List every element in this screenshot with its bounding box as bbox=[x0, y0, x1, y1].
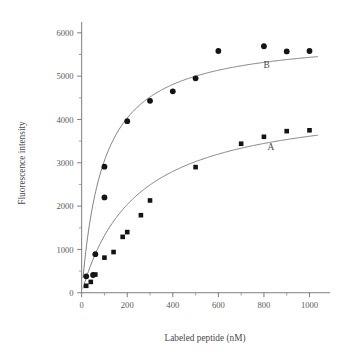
data-point-b bbox=[193, 75, 199, 81]
fit-curve-b bbox=[83, 57, 317, 278]
data-point-b bbox=[102, 164, 108, 170]
y-tick-label: 1000 bbox=[56, 245, 73, 255]
x-axis-title: Labeled peptide (nM) bbox=[164, 333, 245, 344]
data-point-b bbox=[83, 273, 89, 279]
x-tick-label: 200 bbox=[121, 300, 134, 310]
data-point-b bbox=[170, 88, 176, 94]
y-tick-label: 2000 bbox=[56, 201, 73, 211]
data-point-b bbox=[261, 43, 267, 49]
data-point-a bbox=[84, 284, 89, 289]
data-point-a bbox=[125, 230, 130, 235]
data-point-a bbox=[148, 198, 153, 203]
data-point-b bbox=[92, 251, 98, 257]
data-point-a bbox=[102, 255, 107, 260]
curves-group bbox=[83, 57, 317, 288]
data-point-a bbox=[307, 128, 312, 133]
x-tick-label: 800 bbox=[257, 300, 270, 310]
y-tick-label: 6000 bbox=[56, 28, 73, 38]
series-label-a: A bbox=[267, 142, 274, 152]
axes-group: 0200400600800100001000200030004000500060… bbox=[17, 22, 330, 344]
x-tick-label: 600 bbox=[212, 300, 225, 310]
fit-curve-a bbox=[83, 135, 317, 288]
scatter-plot: 0200400600800100001000200030004000500060… bbox=[0, 0, 342, 354]
x-tick-label: 1000 bbox=[301, 300, 318, 310]
data-point-a bbox=[193, 165, 198, 170]
y-tick-label: 3000 bbox=[56, 158, 73, 168]
data-point-a bbox=[120, 235, 125, 240]
data-point-b bbox=[147, 98, 153, 104]
y-axis-title: Fluorescence intensity bbox=[17, 121, 27, 205]
data-point-b bbox=[102, 195, 108, 201]
data-point-a bbox=[239, 141, 244, 146]
x-tick-label: 400 bbox=[166, 300, 179, 310]
y-tick-label: 0 bbox=[69, 288, 73, 298]
data-point-b bbox=[284, 49, 290, 55]
data-point-b bbox=[307, 48, 313, 54]
data-point-b bbox=[124, 118, 130, 124]
figure-container: 0200400600800100001000200030004000500060… bbox=[0, 0, 342, 354]
x-tick-label: 0 bbox=[80, 300, 84, 310]
data-point-b bbox=[215, 48, 221, 54]
data-point-a bbox=[284, 129, 289, 134]
y-tick-label: 5000 bbox=[56, 71, 73, 81]
data-point-a bbox=[139, 213, 144, 218]
data-point-a bbox=[111, 250, 116, 255]
data-point-b bbox=[90, 272, 96, 278]
data-point-a bbox=[262, 134, 267, 139]
data-point-a bbox=[88, 280, 93, 285]
markers-group bbox=[83, 43, 312, 288]
y-tick-label: 4000 bbox=[56, 115, 73, 125]
series-label-b: B bbox=[264, 60, 270, 70]
